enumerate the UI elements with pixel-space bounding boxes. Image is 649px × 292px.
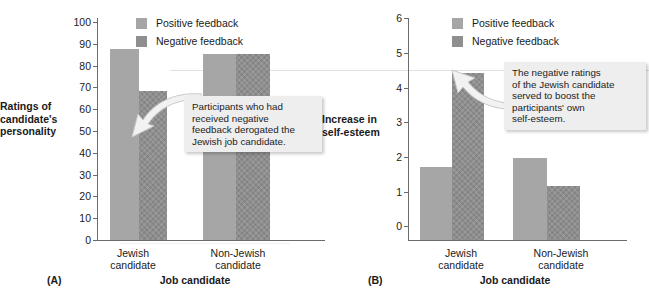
legend-swatch-positive-icon [136, 18, 147, 29]
panel-a-y-axis-title-line2: candidate's [0, 113, 50, 126]
panel-a-y-axis-title: Ratings of candidate's personality [0, 100, 50, 138]
panel-b-ticklabel: 2 [374, 152, 402, 162]
panel-a-callout-line-4: Jewish job candidate. [192, 136, 315, 148]
panel-a-ticklabel: 80 [53, 61, 91, 71]
panel-b-ticklabel: 6 [374, 13, 402, 23]
panel-a-callout-line-1: Participants who had [192, 101, 315, 113]
panel-b-legend-label-negative: Negative feedback [472, 35, 559, 47]
panel-a-x-axis [97, 240, 325, 241]
panel-a-legend-label-positive: Positive feedback [156, 17, 238, 29]
legend-swatch-positive-icon [452, 18, 463, 29]
panel-a-ticklabel: 90 [53, 39, 91, 49]
panel-a-ticklabel: 40 [53, 148, 91, 158]
panel-a-category-jewish-line2: candidate [92, 259, 174, 271]
panel-b-x-axis-title: Job candidate [460, 274, 570, 286]
panel-a-ticklabel: 30 [53, 170, 91, 180]
legend-swatch-negative-icon [136, 36, 147, 47]
panel-b-category-jewish-line1: Jewish [420, 247, 502, 259]
panel-a-y-axis-title-line3: personality [0, 125, 50, 138]
panel-b-bar-jewish-positive[interactable] [420, 167, 452, 240]
panel-a-y-axis-title-line1: Ratings of [0, 100, 50, 113]
panel-a-ticklabel: 70 [53, 82, 91, 92]
panel-b-category-nonjewish: Non-Jewish candidate [515, 247, 607, 271]
panel-a-bar-jewish-negative[interactable] [139, 91, 167, 240]
panel-a-category-nonjewish-line1: Non-Jewish [192, 247, 284, 259]
figure-container: 100 90 80 70 60 50 40 30 20 10 0 Ratings… [0, 0, 649, 292]
panel-a: 100 90 80 70 60 50 40 30 20 10 0 Ratings… [0, 0, 330, 292]
panel-a-ticklabel: 50 [53, 126, 91, 136]
panel-a-ticklabel: 60 [53, 104, 91, 114]
panel-b-ticklabel: 4 [374, 83, 402, 93]
panel-b-callout-line-4: participants' own [512, 102, 639, 114]
panel-a-callout: Participants who had received negative f… [184, 96, 322, 152]
panel-b: 6 5 4 3 2 1 0 Increase in self-esteem Je… [330, 0, 649, 292]
panel-b-category-nonjewish-line2: candidate [515, 259, 607, 271]
panel-b-bar-jewish-negative[interactable] [452, 73, 484, 240]
panel-b-ticklabel: 5 [374, 48, 402, 58]
panel-a-tag: (A) [47, 274, 62, 286]
panel-b-callout: The negative ratings of the Jewish candi… [504, 62, 646, 130]
panel-a-x-axis-title: Job candidate [140, 274, 250, 286]
panel-b-ticklabel: 1 [374, 187, 402, 197]
panel-b-category-jewish-line2: candidate [420, 259, 502, 271]
panel-a-ticklabel: 20 [53, 191, 91, 201]
panel-b-category-jewish: Jewish candidate [420, 247, 502, 271]
panel-a-callout-line-2: received negative [192, 113, 315, 125]
panel-a-ticklabel: 0 [53, 235, 91, 245]
panel-a-tick [93, 240, 97, 241]
panel-a-category-jewish: Jewish candidate [92, 247, 174, 271]
panel-b-callout-line-3: served to boost the [512, 90, 639, 102]
panel-b-bar-nonjewish-positive[interactable] [513, 158, 547, 240]
legend-swatch-negative-icon [452, 36, 463, 47]
panel-a-category-nonjewish-line2: candidate [192, 259, 284, 271]
panel-b-callout-line-2: of the Jewish candidate [512, 79, 639, 91]
panel-a-legend-label-negative: Negative feedback [156, 35, 243, 47]
panel-b-bar-nonjewish-negative[interactable] [547, 186, 580, 240]
panel-b-category-nonjewish-line1: Non-Jewish [515, 247, 607, 259]
panel-a-bar-jewish-positive[interactable] [110, 49, 139, 240]
panel-b-y-axis-title-line2: self-esteem [322, 126, 370, 139]
panel-b-callout-line-5: self-esteem. [512, 113, 639, 125]
panel-b-x-axis [408, 240, 627, 241]
panel-a-category-jewish-line1: Jewish [92, 247, 174, 259]
panel-b-ticklabel: 0 [374, 221, 402, 231]
panel-a-callout-line-3: feedback derogated the [192, 124, 315, 136]
panel-a-category-nonjewish: Non-Jewish candidate [192, 247, 284, 271]
panel-b-y-axis-title: Increase in self-esteem [322, 113, 370, 138]
panel-b-y-axis-title-line1: Increase in [322, 113, 370, 126]
panel-b-legend-label-positive: Positive feedback [472, 17, 554, 29]
panel-a-ticklabel: 100 [53, 17, 91, 27]
panel-b-callout-line-1: The negative ratings [512, 67, 639, 79]
panel-b-tag: (B) [368, 274, 383, 286]
panel-a-ticklabel: 10 [53, 213, 91, 223]
